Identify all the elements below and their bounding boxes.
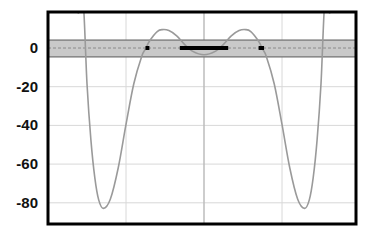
y-tick-label: -20 xyxy=(0,79,38,95)
y-tick-label: -80 xyxy=(0,195,38,211)
line-chart xyxy=(0,0,371,235)
y-tick-label: -40 xyxy=(0,117,38,133)
y-tick-label: -60 xyxy=(0,156,38,172)
y-tick-label: 0 xyxy=(0,40,38,56)
